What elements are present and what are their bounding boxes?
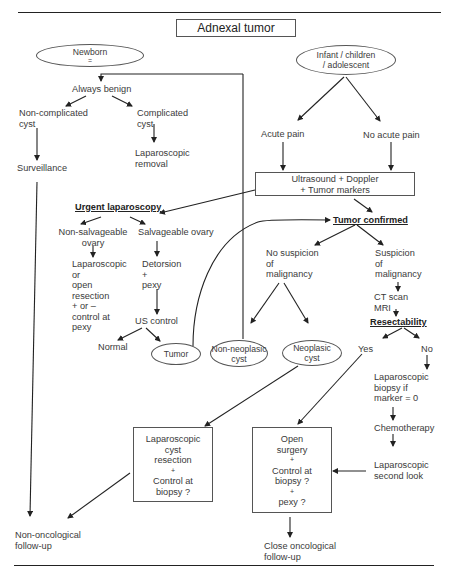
non-oncological-follow-up: Non-oncological follow-up	[15, 530, 81, 551]
urgent-laparoscopy-heading: Urgent laparoscopy	[75, 202, 161, 213]
tumor-label: Tumor	[164, 349, 189, 359]
no-suspicion-line: malignancy	[266, 269, 319, 280]
cyst-resection-line: biopsy ?	[134, 487, 212, 498]
newborn-label: Newborn	[73, 47, 107, 57]
surveillance-label: Surveillance	[17, 163, 67, 174]
cyst-resection-line: resection	[134, 455, 212, 466]
open-surgery-line: surgery	[253, 445, 331, 456]
open-surgery-line: biopsy ?	[253, 476, 331, 487]
suspicion-line: malignancy	[375, 269, 421, 280]
mri-line: MRI	[374, 303, 408, 314]
laparoscopic-removal-line2: removal	[135, 159, 190, 170]
chemotherapy-label: Chemotherapy	[374, 423, 434, 434]
suspicion-malignancy: Suspicion of malignancy	[375, 248, 421, 280]
non-oncological-line: Non-oncological	[15, 530, 81, 541]
ct-scan-mri: CT scan MRI	[374, 292, 408, 313]
no-suspicion-line: No suspicion	[266, 248, 319, 259]
ultrasound-doppler-box: Ultrasound + Doppler + Tumor markers	[255, 172, 415, 196]
resection-line: control at	[72, 312, 127, 323]
resection-line: + or –	[72, 301, 127, 312]
second-look-line: Laparoscopic	[374, 460, 429, 471]
non-salvageable-ovary: Non-salvageable ovary	[58, 227, 128, 248]
non-neoplasic-line2: cyst	[231, 354, 246, 364]
normal-label: Normal	[98, 342, 128, 353]
tumor-confirmed-heading: Tumor confirmed	[333, 215, 408, 226]
neoplasic-cyst-node: Neoplasic cyst	[282, 340, 342, 366]
resection-line: open	[72, 280, 127, 291]
salvageable-ovary-label: Salvageable ovary	[138, 227, 214, 238]
complicated-cyst: Complicated cyst	[137, 108, 188, 129]
non-neoplasic-line1: Non-neoplasic	[212, 344, 267, 354]
diagram-title: Adnexal tumor	[176, 19, 296, 37]
resectability-heading: Resectability	[370, 317, 427, 328]
non-salvageable-line1: Non-salvageable	[58, 227, 128, 238]
infant-label-line2: / adolescent	[323, 60, 369, 70]
acute-pain-label: Acute pain	[261, 129, 304, 140]
non-complicated-line1: Non-complicated	[19, 108, 88, 119]
laparoscopic-cyst-resection-box: Laparoscopic cyst resection + Control at…	[133, 427, 213, 502]
biopsy-line: Laparoscopic	[374, 372, 429, 383]
detorsion-pexy: Detorsion + pexy	[142, 259, 181, 291]
complicated-line2: cyst	[137, 119, 188, 130]
us-control-label: US control	[135, 316, 178, 327]
non-neoplasic-cyst-node: Non-neoplasic cyst	[210, 340, 268, 367]
no-acute-pain-label: No acute pain	[363, 130, 420, 141]
non-oncological-line: follow-up	[15, 541, 81, 552]
no-suspicion-line: of	[266, 259, 319, 270]
resection-line: pexy	[72, 322, 127, 333]
lap-open-resection: Laparoscopic or open resection + or – co…	[72, 259, 127, 333]
laparoscopic-biopsy: Laparoscopic biopsy if marker = 0	[374, 372, 429, 404]
non-salvageable-line2: ovary	[58, 238, 128, 249]
no-label: No	[421, 344, 433, 355]
neoplasic-line2: cyst	[304, 353, 319, 363]
open-surgery-line: +	[253, 455, 331, 466]
resection-line: or	[72, 270, 127, 281]
laparoscopic-second-look: Laparoscopic second look	[374, 460, 429, 481]
biopsy-line: biopsy if	[374, 383, 429, 394]
cyst-resection-line: Control at	[134, 476, 212, 487]
complicated-line1: Complicated	[137, 108, 188, 119]
no-suspicion-malignancy: No suspicion of malignancy	[266, 248, 319, 280]
neoplasic-line1: Neoplasic	[293, 343, 331, 353]
infant-label-line1: Infant / children	[317, 50, 376, 60]
open-surgery-box: Open surgery + Control at biopsy ? + pex…	[252, 427, 332, 513]
suspicion-line: Suspicion	[375, 248, 421, 259]
close-oncological-line: Close oncological	[264, 541, 336, 552]
detorsion-line: Detorsion	[142, 259, 181, 270]
cyst-resection-line: cyst	[134, 445, 212, 456]
detorsion-line: +	[142, 270, 181, 281]
newborn-equals: =	[88, 57, 92, 64]
resection-line: Laparoscopic	[72, 259, 127, 270]
close-oncological-line: follow-up	[264, 552, 336, 563]
second-look-line: second look	[374, 471, 429, 482]
open-surgery-line: +	[253, 487, 331, 498]
non-complicated-line2: cyst	[19, 119, 88, 130]
newborn-node: Newborn =	[36, 44, 144, 67]
ct-line: CT scan	[374, 292, 408, 303]
always-benign-label: Always benign	[72, 84, 131, 95]
laparoscopic-removal: Laparoscopic removal	[135, 148, 190, 169]
non-complicated-cyst: Non-complicated cyst	[19, 108, 88, 129]
connector-layer	[0, 0, 453, 579]
open-surgery-line: Open	[253, 434, 331, 445]
biopsy-line: marker = 0	[374, 393, 429, 404]
cyst-resection-line: Laparoscopic	[134, 434, 212, 445]
suspicion-line: of	[375, 259, 421, 270]
ultrasound-line2: + Tumor markers	[256, 185, 414, 196]
adnexal-tumor-flowchart: Adnexal tumor Newborn = Infant / childre…	[0, 0, 453, 579]
detorsion-line: pexy	[142, 280, 181, 291]
cyst-resection-line: +	[134, 466, 212, 477]
yes-label: Yes	[358, 344, 373, 355]
close-oncological-follow-up: Close oncological follow-up	[264, 541, 336, 562]
open-surgery-line: pexy ?	[253, 497, 331, 508]
open-surgery-line: Control at	[253, 466, 331, 477]
resection-line: resection	[72, 291, 127, 302]
laparoscopic-removal-line1: Laparoscopic	[135, 148, 190, 159]
tumor-node: Tumor	[151, 343, 201, 365]
ultrasound-line1: Ultrasound + Doppler	[256, 174, 414, 185]
infant-children-adolescent-node: Infant / children / adolescent	[296, 45, 396, 75]
